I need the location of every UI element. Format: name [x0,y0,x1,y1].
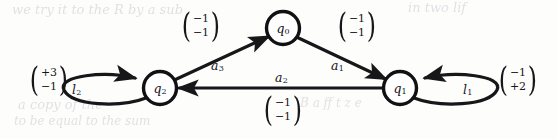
figure-canvas: we try it to the R by a sub in two lif a… [0,0,557,139]
paren-right: ) [528,66,537,93]
node-q0-label: q0 [268,21,298,36]
edge-a2-label: a2 [275,70,288,85]
node-q2-label: q2 [145,81,175,96]
paren-right: ) [367,12,376,39]
paren-left: ( [30,66,39,93]
paren-right: ) [293,96,302,123]
paren-left: ( [499,66,508,93]
edge-a1-vector: ( −1 −1 ) [336,12,378,41]
edge-l1-loop [413,75,498,104]
paren-right: ) [59,66,68,93]
edge-a3-vector: ( −1 −1 ) [180,12,222,41]
edge-a3-label: a3 [211,58,224,73]
edge-l2-label: l2 [72,82,81,97]
edge-a2-vector: ( −1 −1 ) [262,96,304,125]
edge-l2-vector: ( +3 −1 ) [28,66,70,95]
paren-left: ( [182,12,191,39]
paren-right: ) [211,12,220,39]
node-q1-label: q1 [385,81,415,96]
edge-a1-label: a1 [331,58,344,73]
paren-left: ( [264,96,273,123]
edge-l1-label: l1 [463,82,472,97]
paren-left: ( [338,12,347,39]
edge-l1-vector: ( −1 +2 ) [497,66,539,95]
